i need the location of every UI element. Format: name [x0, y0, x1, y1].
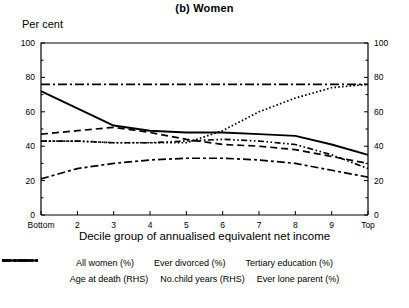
y-tick-label-left: 80	[26, 72, 36, 82]
legend-item[interactable]: All women (%)	[76, 258, 134, 274]
legend-item-label: Ever lone parent (%)	[257, 274, 340, 285]
x-tick-label: 8	[293, 220, 298, 230]
legend-item-label: No.child years (RHS)	[160, 274, 245, 285]
x-tick-label: 6	[220, 220, 225, 230]
legend-item-label: All women (%)	[76, 258, 134, 269]
x-tick-label: 9	[329, 220, 334, 230]
y-tick-label-right: 80	[374, 72, 384, 82]
legend-item-label: Tertiary education (%)	[246, 258, 334, 269]
x-tick-label: Top	[361, 220, 375, 230]
x-tick-label: 7	[257, 220, 262, 230]
y-tick-label-left: 0	[30, 210, 35, 220]
legend-item[interactable]: Tertiary education (%)	[246, 258, 334, 274]
y-tick-label-right: 0	[374, 210, 379, 220]
chart-figure: (b) Women Per cent 020406080100020406080…	[0, 0, 409, 308]
legend-item[interactable]: Ever divorced (%)	[154, 258, 226, 274]
x-tick-label: 2	[75, 220, 80, 230]
x-tick-label: 3	[111, 220, 116, 230]
legend-item[interactable]: Age at death (RHS)	[70, 274, 149, 290]
legend-item-label: Age at death (RHS)	[70, 274, 149, 285]
y-tick-label-left: 60	[26, 107, 36, 117]
legend-swatch	[0, 258, 40, 263]
legend-item[interactable]: No.child years (RHS)	[160, 274, 245, 290]
series-line-6	[41, 158, 368, 179]
y-tick-label-left: 40	[26, 141, 36, 151]
legend-item[interactable]: Ever lone parent (%)	[257, 274, 340, 290]
x-tick-label: Bottom	[28, 220, 55, 230]
series-line-1	[41, 91, 368, 155]
y-tick-label-left: 100	[21, 38, 35, 48]
legend-item-label: Ever divorced (%)	[154, 258, 226, 269]
y-tick-label-right: 20	[374, 176, 384, 186]
y-tick-label-right: 60	[374, 107, 384, 117]
y-tick-label-right: 40	[374, 141, 384, 151]
y-tick-label-left: 20	[26, 176, 36, 186]
legend: All women (%)Ever divorced (%)Tertiary e…	[0, 258, 409, 290]
x-axis-label: Decile group of annualised equivalent ne…	[0, 230, 409, 242]
x-tick-label: 4	[148, 220, 153, 230]
legend-row-1: All women (%)Ever divorced (%)Tertiary e…	[0, 258, 409, 274]
legend-row-2: Age at death (RHS)No.child years (RHS)Ev…	[0, 274, 409, 290]
y-tick-label-right: 100	[374, 38, 388, 48]
x-tick-label: 5	[184, 220, 189, 230]
